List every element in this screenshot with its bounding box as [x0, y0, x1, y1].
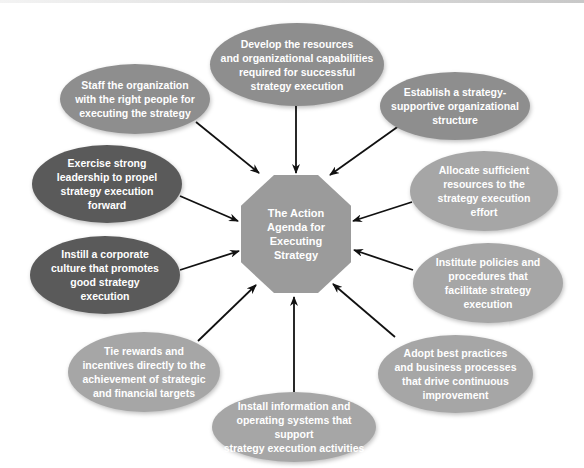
node-line: forward — [57, 198, 157, 212]
node-line: and financial targets — [82, 386, 205, 400]
node-line: Establish a strategy- — [391, 85, 519, 99]
node-line: Exercise strong — [57, 156, 157, 170]
node-line: Instill a corporate — [51, 247, 159, 261]
node-line: with the right people for — [75, 92, 195, 106]
node-adopt-best-practices: Adopt best practices and business proces… — [378, 335, 533, 413]
node-line: required for successful — [221, 65, 374, 79]
node-line: Staff the organization — [75, 78, 195, 92]
node-allocate-resources: Allocate sufficient resources to the str… — [410, 151, 558, 231]
arrow-instill — [180, 251, 239, 270]
node-tie-rewards: Tie rewards and incentives directly to t… — [68, 332, 220, 412]
node-instill-culture: Instill a corporate culture that promote… — [30, 236, 180, 314]
node-line: and organizational capabilities — [221, 51, 374, 65]
node-line: and business processes — [395, 360, 517, 374]
node-line: leadership to propel — [57, 170, 157, 184]
node-line: culture that promotes — [51, 261, 159, 275]
center-line: Strategy — [267, 248, 325, 262]
node-line: resources to the — [438, 177, 531, 191]
node-line: execution — [436, 297, 540, 311]
arrow-staff — [196, 122, 259, 173]
node-line: structure — [391, 113, 519, 127]
node-line: strategy execution — [57, 184, 157, 198]
center-line: The Action — [267, 206, 325, 220]
node-line: supportive organizational — [391, 99, 519, 113]
center-line: Agenda for — [267, 220, 325, 234]
node-line: incentives directly to the — [82, 358, 205, 372]
node-install-information-systems: Install information and operating system… — [212, 392, 376, 462]
node-institute-policies: Institute policies and procedures that f… — [413, 243, 563, 323]
node-line: that drive continuous — [395, 374, 517, 388]
node-establish-structure: Establish a strategy- supportive organiz… — [380, 72, 530, 140]
node-staff-organization: Staff the organization with the right pe… — [60, 64, 210, 134]
node-line: improvement — [395, 388, 517, 402]
node-line: execution — [51, 289, 159, 303]
node-line: Adopt best practices — [395, 346, 517, 360]
node-line: Allocate sufficient — [438, 163, 531, 177]
node-line: strategy execution activities — [222, 441, 366, 455]
node-line: procedures that — [436, 269, 540, 283]
arrow-tie — [198, 285, 256, 341]
center-line: Executing — [267, 234, 325, 248]
arrow-allocate — [353, 202, 412, 221]
node-line: operating systems that support — [222, 413, 366, 441]
arrow-adopt — [333, 284, 395, 337]
node-develop-resources: Develop the resources and organizational… — [210, 23, 384, 106]
node-line: Develop the resources — [221, 37, 374, 51]
node-exercise-leadership: Exercise strong leadership to propel str… — [32, 145, 182, 223]
node-line: achievement of strategic — [82, 372, 205, 386]
node-line: Tie rewards and — [82, 344, 205, 358]
node-line: strategy execution — [438, 191, 531, 205]
node-line: facilitate strategy — [436, 283, 540, 297]
node-line: Institute policies and — [436, 255, 540, 269]
center-action-agenda: The Action Agenda for Executing Strategy — [241, 175, 351, 293]
node-line: Install information and — [222, 399, 366, 413]
node-line: effort — [438, 205, 531, 219]
arrow-institute — [354, 250, 413, 270]
node-line: good strategy — [51, 275, 159, 289]
arrow-exercise — [180, 196, 238, 221]
node-line: executing the strategy — [75, 106, 195, 120]
arrow-establish — [330, 123, 403, 175]
node-line: strategy execution — [221, 79, 374, 93]
